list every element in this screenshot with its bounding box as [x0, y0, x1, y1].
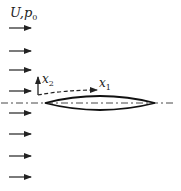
x1-axis-arrow-icon — [38, 90, 97, 95]
freestream-label: U,p0 — [10, 5, 37, 22]
x1-axis-label: x1 — [99, 76, 111, 92]
freestream-arrows — [9, 28, 31, 177]
airfoil-flow-diagram: U,p0 x2 x1 — [0, 0, 181, 191]
x2-axis-label: x2 — [42, 72, 54, 88]
